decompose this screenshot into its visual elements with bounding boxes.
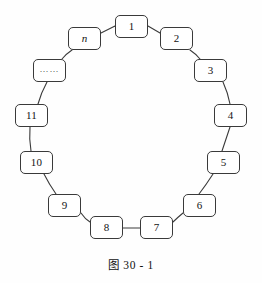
connector-node-9-to-node-10 [44,174,56,194]
node-n: n [68,27,101,50]
node-10: 10 [20,151,53,174]
node-7: 7 [140,216,173,239]
connector-node-3-to-node-4 [223,82,230,104]
node-6-label: 6 [197,200,203,211]
node-4-label: 4 [228,110,234,121]
node-5: 5 [207,151,240,174]
node-11-label: 11 [26,110,37,121]
node-4: 4 [214,104,247,127]
connector-node-8-to-node-9 [81,213,90,222]
node-n-label: n [82,33,88,44]
connector-node-6-to-node-7 [173,213,183,222]
node-10-label: 10 [31,157,42,168]
connector-node-ellipsis-to-node-n [62,50,72,59]
node-7-label: 7 [154,222,160,233]
node-3: 3 [194,59,227,82]
connector-node-2-to-node-3 [190,50,200,59]
node-11: 11 [15,104,48,127]
node-ellipsis: …… [33,59,66,82]
node-8-label: 8 [104,222,110,233]
connector-layer [0,0,262,283]
node-5-label: 5 [221,157,227,168]
node-8: 8 [90,216,123,239]
connector-node-5-to-node-6 [199,174,213,194]
connector-node-n-to-node-1 [101,26,115,33]
connector-node-1-to-node-2 [148,26,160,33]
node-9: 9 [48,194,81,217]
node-2: 2 [160,27,193,50]
figure-ring-diagram: 1234567891011……n 图 30 - 1 [0,0,262,283]
connector-node-10-to-node-11 [30,127,31,151]
node-9-label: 9 [62,200,68,211]
node-6: 6 [183,194,216,217]
node-1-label: 1 [129,21,135,32]
node-ellipsis-label: …… [39,65,59,74]
figure-caption: 图 30 - 1 [0,256,262,272]
node-2-label: 2 [174,33,180,44]
node-1: 1 [115,15,148,38]
connector-node-4-to-node-5 [222,127,230,151]
node-3-label: 3 [208,65,214,76]
connector-node-11-to-node-ellipsis [38,82,47,104]
